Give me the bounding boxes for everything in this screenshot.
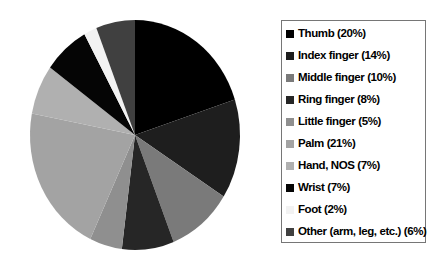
legend-label: Middle finger (10%) [298, 72, 396, 84]
legend-swatch-foot [286, 206, 294, 214]
figure-canvas: Thumb (20%)Index finger (14%)Middle fing… [0, 0, 444, 259]
legend-list: Thumb (20%)Index finger (14%)Middle fing… [286, 23, 425, 243]
legend-label: Index finger (14%) [298, 50, 390, 62]
legend-swatch-middle-finger [286, 74, 294, 82]
legend-item-wrist: Wrist (7%) [286, 177, 425, 199]
chart-legend: Thumb (20%)Index finger (14%)Middle fing… [281, 20, 426, 243]
legend-swatch-other-arm-leg-etc [286, 228, 294, 236]
legend-swatch-little-finger [286, 118, 294, 126]
legend-label: Little finger (5%) [298, 116, 381, 128]
legend-item-palm: Palm (21%) [286, 133, 425, 155]
legend-swatch-wrist [286, 184, 294, 192]
legend-swatch-index-finger [286, 52, 294, 60]
legend-label: Foot (2%) [298, 204, 347, 216]
legend-label: Wrist (7%) [298, 182, 350, 194]
legend-swatch-ring-finger [286, 96, 294, 104]
legend-label: Ring finger (8%) [298, 94, 380, 106]
legend-label: Thumb (20%) [298, 28, 366, 40]
legend-swatch-palm [286, 140, 294, 148]
pie-chart-area [0, 0, 270, 259]
legend-label: Hand, NOS (7%) [298, 160, 380, 172]
legend-item-index-finger: Index finger (14%) [286, 45, 425, 67]
legend-item-foot: Foot (2%) [286, 199, 425, 221]
legend-label: Other (arm, leg, etc.) (6%) [298, 226, 427, 238]
legend-item-ring-finger: Ring finger (8%) [286, 89, 425, 111]
legend-item-hand-nos: Hand, NOS (7%) [286, 155, 425, 177]
legend-item-other-arm-leg-etc: Other (arm, leg, etc.) (6%) [286, 221, 425, 243]
legend-swatch-hand-nos [286, 162, 294, 170]
legend-swatch-thumb [286, 30, 294, 38]
legend-item-middle-finger: Middle finger (10%) [286, 67, 425, 89]
pie-chart [0, 0, 270, 259]
legend-label: Palm (21%) [298, 138, 355, 150]
legend-item-little-finger: Little finger (5%) [286, 111, 425, 133]
legend-item-thumb: Thumb (20%) [286, 23, 425, 45]
